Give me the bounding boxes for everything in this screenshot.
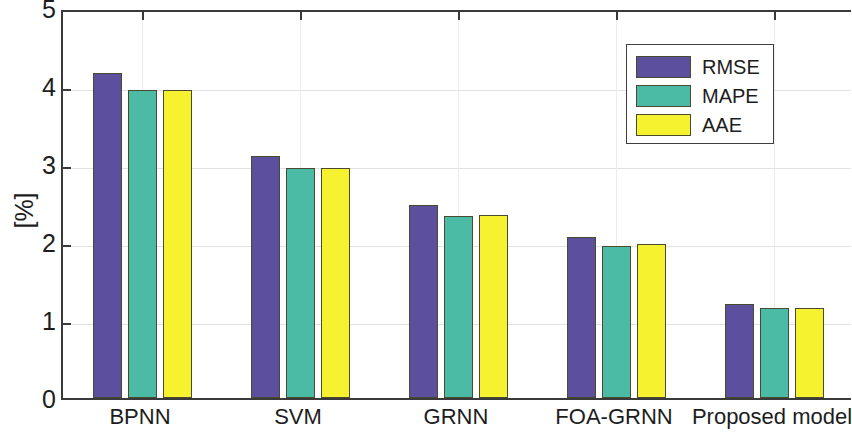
bar-aae-proposed-model [795,308,824,398]
legend-swatch-aae [636,114,691,136]
y-axis-tick-mark [63,167,71,169]
bar-mape-proposed-model [760,308,789,398]
legend-label-aae: AAE [702,115,742,135]
legend-label-rmse: RMSE [702,57,760,77]
bar-rmse-svm [251,156,280,398]
y-axis-tick-labels: 012345 [0,0,56,432]
x-axis-tick-mark [616,12,618,20]
bar-aae-grnn [479,215,508,398]
bar-mape-bpnn [128,90,157,398]
bar-aae-bpnn [163,90,192,398]
bar-aae-svm [321,168,350,398]
y-axis-tick-mark [63,245,71,247]
x-axis-tick-label: GRNN [424,404,489,430]
bar-rmse-grnn [409,205,438,398]
bar-mape-grnn [444,216,473,398]
legend-item: AAE [627,110,773,139]
x-axis-tick-mark [774,12,776,20]
bar-mape-svm [286,168,315,398]
y-axis-tick-label: 0 [22,387,56,412]
bar-rmse-foa-grnn [567,237,596,398]
bar-aae-foa-grnn [637,244,666,398]
y-axis-tick-label: 3 [22,153,56,178]
y-axis-tick-mark [63,89,71,91]
y-axis-tick-label: 4 [22,75,56,100]
legend-item: RMSE [627,52,773,81]
x-axis-tick-mark [458,12,460,20]
x-axis-tick-label: FOA-GRNN [555,404,672,430]
bar-rmse-proposed-model [725,304,754,398]
y-axis-tick-label: 5 [22,0,56,22]
y-axis-tick-label: 1 [22,309,56,334]
bar-rmse-bpnn [93,73,122,398]
x-axis-tick-label: SVM [274,404,322,430]
chart-legend: RMSE MAPE AAE [626,44,774,144]
legend-item: MAPE [627,81,773,110]
x-axis-tick-label: BPNN [109,404,170,430]
y-axis-tick-mark [63,323,71,325]
x-axis-tick-label: Proposed model [692,404,852,430]
legend-label-mape: MAPE [702,86,759,106]
y-axis-tick-label: 2 [22,231,56,256]
x-axis-tick-mark [300,12,302,20]
legend-swatch-rmse [636,56,691,78]
x-axis-tick-mark [142,12,144,20]
bar-mape-foa-grnn [602,246,631,398]
legend-swatch-mape [636,85,691,107]
